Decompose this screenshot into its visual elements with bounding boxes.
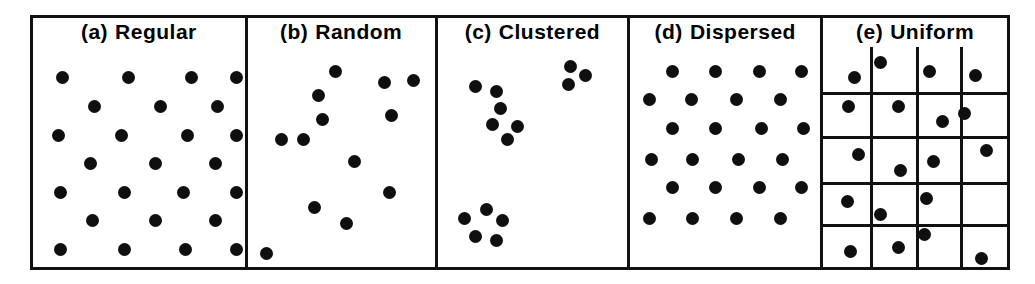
data-point-dot <box>643 93 656 106</box>
panel-c-plot <box>438 47 628 267</box>
data-point-dot <box>918 228 931 241</box>
data-point-dot <box>958 107 971 120</box>
data-point-dot <box>562 78 575 91</box>
data-point-dot <box>209 214 222 227</box>
data-point-dot <box>686 212 699 225</box>
figure-panel-row: (a)Regular (b)Random (c)Clustered (d)Dis… <box>30 15 1010 270</box>
data-point-dot <box>645 153 658 166</box>
data-point-dot <box>275 133 288 146</box>
data-point-dot <box>730 212 743 225</box>
data-point-dot <box>844 245 857 258</box>
data-point-dot <box>643 212 656 225</box>
panel-e-label: Uniform <box>890 20 974 43</box>
data-point-dot <box>179 243 192 256</box>
data-point-dot <box>666 122 679 135</box>
data-point-dot <box>666 181 679 194</box>
panel-a-tag: (a) <box>81 20 108 43</box>
panel-a-label: Regular <box>115 20 197 43</box>
data-point-dot <box>776 153 789 166</box>
data-point-dot <box>348 155 361 168</box>
panel-d-tag: (d) <box>655 20 683 43</box>
quadrat-gridline-horizontal <box>823 136 1007 139</box>
panel-d-plot <box>630 47 820 267</box>
data-point-dot <box>52 129 65 142</box>
data-point-dot <box>378 76 391 89</box>
data-point-dot <box>579 69 592 82</box>
quadrat-gridline-horizontal <box>823 182 1007 185</box>
data-point-dot <box>892 100 905 113</box>
data-point-dot <box>297 133 310 146</box>
data-point-dot <box>753 181 766 194</box>
data-point-dot <box>312 89 325 102</box>
data-point-dot <box>774 212 787 225</box>
data-point-dot <box>709 122 722 135</box>
data-point-dot <box>340 217 353 230</box>
panel-a-regular: (a)Regular <box>33 18 245 267</box>
quadrat-gridline-vertical <box>870 47 873 267</box>
panel-b-label: Random <box>315 20 402 43</box>
data-point-dot <box>797 122 810 135</box>
data-point-dot <box>118 186 131 199</box>
data-point-dot <box>88 100 101 113</box>
data-point-dot <box>496 214 509 227</box>
data-point-dot <box>975 252 988 265</box>
data-point-dot <box>755 122 768 135</box>
quadrat-gridline-horizontal <box>823 92 1007 95</box>
data-point-dot <box>494 102 507 115</box>
data-point-dot <box>848 71 861 84</box>
data-point-dot <box>185 71 198 84</box>
data-point-dot <box>795 181 808 194</box>
data-point-dot <box>230 71 243 84</box>
panel-c-tag: (c) <box>465 20 492 43</box>
panel-a-title: (a)Regular <box>33 19 245 45</box>
data-point-dot <box>54 186 67 199</box>
panel-b-tag: (b) <box>280 20 308 43</box>
panel-e-plot <box>823 47 1007 267</box>
data-point-dot <box>211 100 224 113</box>
panel-b-plot <box>248 47 435 267</box>
data-point-dot <box>230 243 243 256</box>
data-point-dot <box>732 153 745 166</box>
data-point-dot <box>407 74 420 87</box>
data-point-dot <box>469 230 482 243</box>
data-point-dot <box>920 192 933 205</box>
data-point-dot <box>122 71 135 84</box>
data-point-dot <box>181 129 194 142</box>
data-point-dot <box>709 181 722 194</box>
data-point-dot <box>383 186 396 199</box>
data-point-dot <box>149 157 162 170</box>
data-point-dot <box>490 234 503 247</box>
data-point-dot <box>486 118 499 131</box>
data-point-dot <box>874 56 887 69</box>
panel-b-title: (b)Random <box>248 19 435 45</box>
data-point-dot <box>685 93 698 106</box>
panel-d-title: (d)Dispersed <box>630 19 820 45</box>
data-point-dot <box>894 164 907 177</box>
panel-a-plot <box>33 47 245 267</box>
data-point-dot <box>666 65 679 78</box>
data-point-dot <box>795 65 808 78</box>
data-point-dot <box>852 148 865 161</box>
data-point-dot <box>511 120 524 133</box>
data-point-dot <box>980 144 993 157</box>
data-point-dot <box>84 157 97 170</box>
panel-c-title: (c)Clustered <box>438 19 628 45</box>
data-point-dot <box>480 203 493 216</box>
data-point-dot <box>154 100 167 113</box>
panel-b-random: (b)Random <box>245 18 435 267</box>
data-point-dot <box>177 186 190 199</box>
panel-d-label: Dispersed <box>690 20 796 43</box>
data-point-dot <box>730 93 743 106</box>
data-point-dot <box>230 129 243 142</box>
data-point-dot <box>936 115 949 128</box>
data-point-dot <box>54 243 67 256</box>
data-point-dot <box>118 243 131 256</box>
data-point-dot <box>490 85 503 98</box>
data-point-dot <box>115 129 128 142</box>
data-point-dot <box>316 113 329 126</box>
data-point-dot <box>686 153 699 166</box>
data-point-dot <box>458 212 471 225</box>
data-point-dot <box>774 93 787 106</box>
data-point-dot <box>501 133 514 146</box>
data-point-dot <box>753 65 766 78</box>
